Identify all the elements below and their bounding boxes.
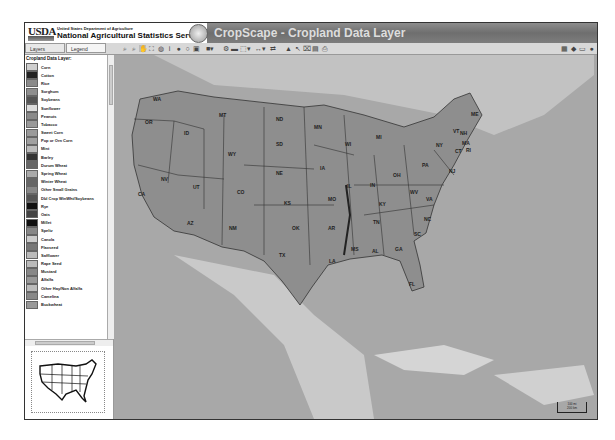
legend-label: Sweet Corn: [41, 130, 63, 135]
tab-layers[interactable]: Layers: [25, 43, 65, 53]
statistics-icon[interactable]: ⇄: [269, 45, 276, 52]
clear-icon[interactable]: ⌧: [303, 45, 310, 52]
scale-bottom-label: 200 km: [558, 406, 586, 410]
legend-label: Dbl Crop WinWht/Soybeans: [41, 196, 94, 201]
save-icon[interactable]: ▣: [193, 45, 200, 52]
hscroll-thumb[interactable]: [35, 341, 95, 345]
legend-swatch: [26, 301, 38, 309]
legend-item: Rye: [25, 202, 108, 210]
circle-outline-icon[interactable]: ○: [184, 45, 191, 52]
legend-label: Durum Wheat: [41, 163, 67, 168]
cursor-icon[interactable]: ↖: [294, 45, 301, 52]
legend-label: Spring Wheat: [41, 171, 67, 176]
select-dropdown-icon[interactable]: ⬚▾: [240, 45, 247, 52]
state-label: OH: [393, 172, 401, 178]
app-title: CropScape - Cropland Data Layer: [214, 26, 405, 40]
nass-seal-icon: [189, 24, 208, 43]
state-label: CO: [237, 189, 245, 195]
legend-item: Rice: [25, 79, 108, 87]
zoom-out-icon[interactable]: ⌕: [130, 45, 137, 52]
layers-dropdown-icon[interactable]: ■▾: [206, 45, 213, 52]
legend-swatch: [26, 210, 38, 218]
legend-swatch: [26, 71, 38, 79]
legend-label: Cotton: [41, 73, 54, 78]
scale-bar: 100 mi 200 km: [557, 402, 587, 413]
zoom-in-icon[interactable]: ⌕: [121, 45, 128, 52]
legend-item: Soybeans: [25, 96, 108, 104]
state-label: CT: [455, 148, 462, 154]
state-label: LA: [329, 258, 336, 264]
legend-label: Alfalfa: [41, 277, 53, 282]
legend-swatch: [26, 276, 38, 284]
legend-item: Other Hay/Non Alfalfa: [25, 284, 108, 292]
info-icon[interactable]: i: [166, 45, 173, 52]
area-icon[interactable]: ▬: [231, 45, 238, 52]
state-label: NE: [276, 170, 283, 176]
window-icon[interactable]: ▭: [579, 45, 586, 52]
state-label: IL: [347, 183, 351, 189]
scroll-thumb[interactable]: [109, 65, 113, 105]
zoom-extent-icon[interactable]: ⛶: [148, 45, 155, 52]
legend-item: Canola: [25, 235, 108, 243]
help-icon[interactable]: ●: [588, 45, 595, 52]
legend-label: Corn: [41, 65, 50, 70]
legend-item: Mint: [25, 145, 108, 153]
legend-swatch: [26, 227, 38, 235]
diamond-icon[interactable]: ◆: [570, 45, 577, 52]
legend-item: Mustard: [25, 268, 108, 276]
state-label: VA: [426, 196, 433, 202]
legend-swatch: [26, 112, 38, 120]
pan-icon[interactable]: ✋: [139, 45, 146, 52]
legend-swatch: [26, 88, 38, 96]
legend-swatch: [26, 186, 38, 194]
legend-label: Canola: [41, 237, 54, 242]
overview-map[interactable]: [31, 351, 105, 413]
state-label: NY: [436, 142, 443, 148]
legend-label: Other Small Grains: [41, 187, 77, 192]
legend-label: Rape Seed: [41, 261, 61, 266]
state-label: MT: [219, 112, 226, 118]
legend-item: Peanuts: [25, 112, 108, 120]
state-label: KY: [379, 201, 386, 207]
state-label: TN: [373, 219, 380, 225]
state-label: NC: [424, 216, 431, 222]
legend-item: Flaxseed: [25, 243, 108, 251]
legend-label: Tobacco: [41, 122, 57, 127]
state-label: MO: [328, 196, 336, 202]
header-bar: USDA United States Department of Agricul…: [25, 23, 597, 43]
state-label: ME: [471, 111, 479, 117]
agency-name: National Agricultural Statistics Service: [57, 31, 204, 40]
print-icon[interactable]: ⎙: [321, 45, 328, 52]
state-label: AL: [372, 248, 379, 254]
legend-swatch: [26, 268, 38, 276]
legend-horizontal-scrollbar[interactable]: [25, 339, 113, 346]
gear-icon[interactable]: ⚙: [222, 45, 229, 52]
export-icon[interactable]: ▤: [312, 45, 319, 52]
state-label: WA: [153, 96, 161, 102]
legend-swatch: [26, 251, 38, 259]
legend-item: Millet: [25, 219, 108, 227]
legend-vertical-scrollbar[interactable]: [107, 55, 114, 339]
legend-item: Dbl Crop WinWht/Soybeans: [25, 194, 108, 202]
legend-swatch: [26, 243, 38, 251]
legend-item: Spring Wheat: [25, 169, 108, 177]
tab-legend[interactable]: Legend: [66, 43, 106, 53]
legend-swatch: [26, 129, 38, 137]
circle-icon[interactable]: ●: [175, 45, 182, 52]
legend-item: Pop or Orn Corn: [25, 137, 108, 145]
legend-item: Tobacco: [25, 120, 108, 128]
map-view[interactable]: WAORIDMTWYNVCAUTAZCONMNDSDNEKSOKTXMNIAMO…: [114, 55, 597, 419]
upload-icon[interactable]: ▲: [285, 45, 292, 52]
measure-dropdown-icon[interactable]: ↔▾: [255, 45, 262, 52]
globe-icon[interactable]: ◍: [157, 45, 164, 52]
legend-label: Other Hay/Non Alfalfa: [41, 286, 82, 291]
state-label: WV: [410, 189, 418, 195]
state-label: GA: [395, 246, 403, 252]
state-label: OK: [292, 225, 300, 231]
legend-swatch: [26, 194, 38, 202]
state-label: MA: [462, 140, 470, 146]
grid-icon[interactable]: ▦: [561, 45, 568, 52]
state-label: AR: [328, 225, 335, 231]
legend-item: Sweet Corn: [25, 129, 108, 137]
state-label: ID: [184, 130, 189, 136]
